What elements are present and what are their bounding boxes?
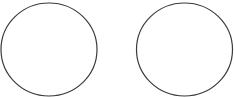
canvas bbox=[0, 0, 234, 97]
right-circle bbox=[137, 3, 233, 96]
left-circle bbox=[1, 3, 97, 96]
